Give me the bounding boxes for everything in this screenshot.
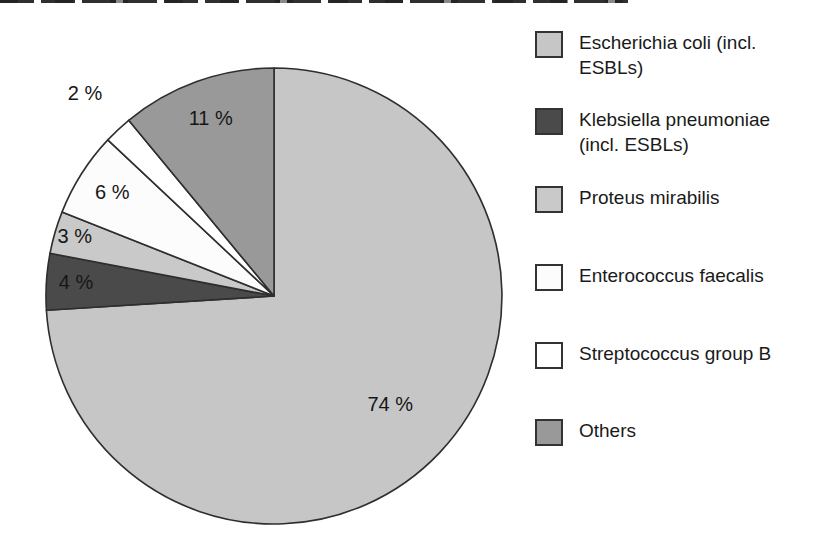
slice-label-1: 4 % xyxy=(59,271,94,293)
figure-canvas: 74 %4 %3 %6 %2 %11 % Escherichia coli (i… xyxy=(0,0,818,547)
legend-item-others: Others xyxy=(535,418,803,446)
legend-label: Streptococcus group B xyxy=(579,341,803,366)
legend-swatch-icon xyxy=(535,186,563,213)
slice-label-5: 11 % xyxy=(189,107,233,129)
slice-label-3: 6 % xyxy=(95,181,130,203)
slice-label-0: 74 % xyxy=(368,393,414,415)
legend-label: Escherichia coli (incl. ESBLs) xyxy=(579,30,803,80)
slice-label-4: 2 % xyxy=(68,82,103,104)
legend-swatch-icon xyxy=(535,108,563,135)
legend-label: Proteus mirabilis xyxy=(579,185,803,210)
legend-swatch-icon xyxy=(535,264,563,291)
legend-item-klebsiella-pneumoniae: Klebsiella pneumoniae (incl. ESBLs) xyxy=(535,107,803,157)
legend-label: Enterococcus faecalis xyxy=(579,263,803,288)
legend-item-proteus-mirabilis: Proteus mirabilis xyxy=(535,185,803,213)
legend-label: Klebsiella pneumoniae (incl. ESBLs) xyxy=(579,107,803,157)
legend-swatch-icon xyxy=(535,31,563,58)
slice-label-2: 3 % xyxy=(58,225,93,247)
legend-swatch-icon xyxy=(535,342,563,369)
legend-item-escherichia-coli: Escherichia coli (incl. ESBLs) xyxy=(535,30,803,80)
legend-label: Others xyxy=(579,418,803,443)
legend-item-enterococcus-faecalis: Enterococcus faecalis xyxy=(535,263,803,291)
legend-item-streptococcus-group-b: Streptococcus group B xyxy=(535,341,803,369)
legend-swatch-icon xyxy=(535,419,563,446)
